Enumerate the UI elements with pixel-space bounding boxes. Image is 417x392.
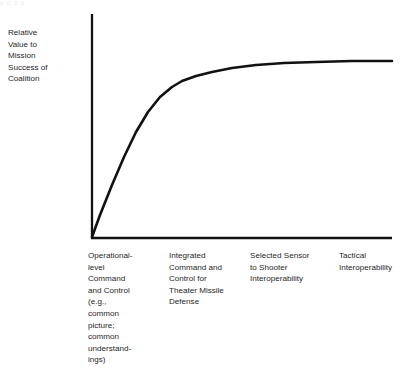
x-axis-label-line: Theater Missile — [169, 285, 249, 297]
x-axis-label-line: ings) — [88, 354, 166, 366]
x-axis-label-line: level — [88, 262, 166, 274]
x-axis-label-line: Control for — [169, 273, 249, 285]
x-axis-label-line: Command and — [169, 262, 249, 274]
x-axis-label-line: common — [88, 308, 166, 320]
x-axis-label-line: to Shooter — [250, 262, 332, 274]
x-axis-label-line: Interoperability — [339, 262, 417, 274]
x-axis-label-line: picture; — [88, 320, 166, 332]
x-axis-label-line: and Control — [88, 285, 166, 297]
x-axis-label-line: Selected Sensor — [250, 250, 332, 262]
value-curve-line — [92, 61, 392, 237]
x-axis-label-line: common — [88, 331, 166, 343]
x-axis-label-line: Interoperability — [250, 273, 332, 285]
x-axis-category-labels: Operational- level Command and Control (… — [0, 250, 417, 390]
x-axis-label-selected-sensor-to-shooter-interoperability: Selected Sensor to Shooter Interoperabil… — [250, 250, 332, 285]
x-axis-label-line: Operational- — [88, 250, 166, 262]
x-axis-label-integrated-command-and-control-theater-missile-defense: Integrated Command and Control for Theat… — [169, 250, 249, 308]
x-axis-label-line: Defense — [169, 296, 249, 308]
x-axis-label-line: Integrated — [169, 250, 249, 262]
x-axis-label-line: understand- — [88, 343, 166, 355]
x-axis-label-operational-level-command-and-control: Operational- level Command and Control (… — [88, 250, 166, 366]
figure-relative-value-chart: y g p y Relative Value to Mission Succes… — [0, 0, 417, 392]
x-axis-label-line: Tactical — [339, 250, 417, 262]
x-axis-label-line: Command — [88, 273, 166, 285]
x-axis-label-tactical-interoperability: Tactical Interoperability — [339, 250, 417, 273]
x-axis-label-line: (e.g., — [88, 296, 166, 308]
